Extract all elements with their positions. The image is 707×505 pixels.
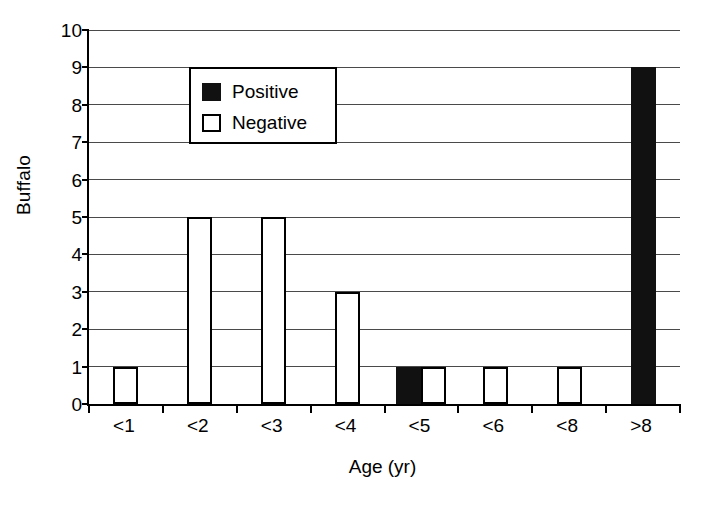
x-tick-label: <6 xyxy=(482,414,504,438)
y-tick-label: 0 xyxy=(52,395,82,414)
legend-swatch-negative-icon xyxy=(202,114,221,132)
y-tick-label: 8 xyxy=(52,95,82,114)
y-tick-label: 7 xyxy=(52,133,82,152)
gridline xyxy=(89,291,680,292)
x-tick-mark xyxy=(384,404,386,413)
plot-area: Positive Negative xyxy=(87,30,680,406)
y-tick-mark xyxy=(82,141,89,143)
x-tick-label: <8 xyxy=(556,414,578,438)
y-tick-label: 10 xyxy=(52,21,82,40)
bar-positive-<5 xyxy=(396,367,421,404)
x-tick-label: <4 xyxy=(335,414,357,438)
bar-negative-<2 xyxy=(187,217,212,404)
x-tick-label: <2 xyxy=(187,414,209,438)
x-tick-mark xyxy=(310,404,312,413)
legend: Positive Negative xyxy=(189,67,337,144)
legend-item-positive: Positive xyxy=(202,76,335,107)
bar-positive->8 xyxy=(631,67,656,404)
gridline xyxy=(89,254,680,255)
bar-negative-<4 xyxy=(335,292,360,404)
x-tick-mark xyxy=(531,404,533,413)
x-tick-label: <5 xyxy=(409,414,431,438)
x-tick-mark xyxy=(679,404,681,413)
x-axis-tick-labels: <1<2<3<4<5<6<8>8 xyxy=(87,414,678,442)
x-tick-mark xyxy=(88,404,90,413)
bar-negative-<6 xyxy=(483,367,508,404)
y-tick-mark xyxy=(82,328,89,330)
x-tick-mark xyxy=(236,404,238,413)
y-tick-label: 1 xyxy=(52,357,82,376)
y-tick-mark xyxy=(82,179,89,181)
gridline xyxy=(89,30,680,31)
y-tick-mark xyxy=(82,291,89,293)
gridline xyxy=(89,104,680,105)
gridline xyxy=(89,217,680,218)
x-tick-mark xyxy=(162,404,164,413)
legend-swatch-positive-icon xyxy=(202,83,221,101)
legend-label-negative: Negative xyxy=(232,113,307,132)
gridline xyxy=(89,67,680,68)
x-tick-mark xyxy=(605,404,607,413)
x-tick-label: >8 xyxy=(630,414,652,438)
bar-negative-<8 xyxy=(557,367,582,404)
bar-negative-<1 xyxy=(113,367,138,404)
y-tick-mark xyxy=(82,216,89,218)
bar-chart: Buffalo 012345678910 Positive Negative <… xyxy=(0,0,707,505)
y-axis-tick-labels: 012345678910 xyxy=(50,0,82,505)
legend-item-negative: Negative xyxy=(202,107,335,138)
y-tick-mark xyxy=(82,29,89,31)
y-tick-label: 5 xyxy=(52,208,82,227)
y-tick-mark xyxy=(82,104,89,106)
y-axis-title: Buffalo xyxy=(11,125,37,245)
bar-negative-<5 xyxy=(421,367,446,404)
y-tick-label: 4 xyxy=(52,245,82,264)
y-tick-label: 2 xyxy=(52,320,82,339)
x-tick-label: <3 xyxy=(261,414,283,438)
gridline xyxy=(89,329,680,330)
gridline xyxy=(89,366,680,367)
legend-label-positive: Positive xyxy=(232,82,299,101)
y-tick-mark xyxy=(82,253,89,255)
x-tick-label: <1 xyxy=(113,414,135,438)
gridline xyxy=(89,142,680,143)
y-tick-label: 3 xyxy=(52,282,82,301)
y-tick-mark xyxy=(82,366,89,368)
y-tick-mark xyxy=(82,66,89,68)
gridline xyxy=(89,179,680,180)
bar-negative-<3 xyxy=(261,217,286,404)
y-tick-label: 6 xyxy=(52,170,82,189)
x-axis-title: Age (yr) xyxy=(87,456,678,478)
y-tick-label: 9 xyxy=(52,58,82,77)
x-tick-mark xyxy=(457,404,459,413)
